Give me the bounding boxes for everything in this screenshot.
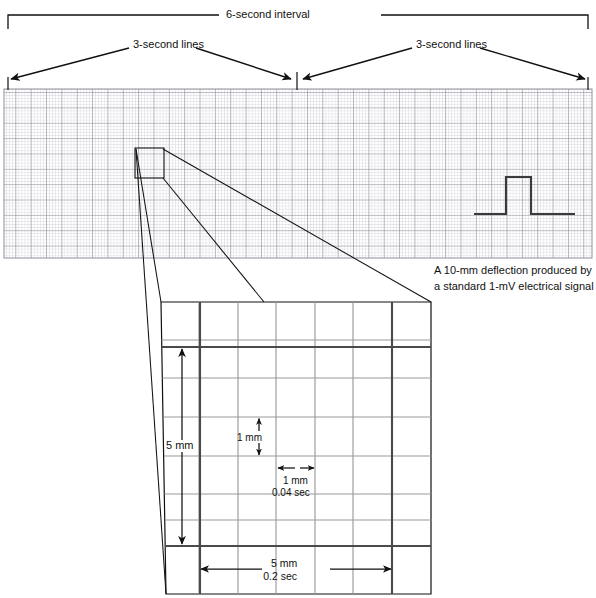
calibration-caption-line-1: A 10-mm deflection produced by bbox=[434, 263, 594, 279]
three-second-arrows-left bbox=[11, 48, 291, 79]
label-5mm-horizontal: 5 mm 0.2 sec bbox=[271, 557, 297, 583]
magnified-panel-frame bbox=[161, 302, 431, 594]
annotation-layer bbox=[0, 0, 596, 598]
three-second-lines-label-right: 3-second lines bbox=[416, 38, 487, 51]
label-1mm-vertical: 1 mm bbox=[237, 432, 262, 444]
three-second-arrows-right bbox=[303, 48, 585, 79]
three-second-tick-marks bbox=[8, 72, 588, 90]
label-1mm-horizontal-line-1: 1 mm bbox=[281, 475, 310, 487]
three-second-lines-label-left: 3-second lines bbox=[133, 38, 204, 51]
label-5mm-horizontal-line-2: 0.2 sec bbox=[263, 570, 297, 583]
magnified-panel-grid-bold bbox=[162, 302, 431, 594]
calibration-caption-line-2: a standard 1-mV electrical signal bbox=[434, 279, 594, 295]
ecg-paper-figure: 6-second interval 3-second lines 3-secon… bbox=[0, 0, 596, 598]
label-1mm-horizontal-line-2: 0.04 sec bbox=[272, 487, 310, 499]
six-second-interval-label: 6-second interval bbox=[226, 8, 310, 21]
magnification-projection-lines bbox=[136, 149, 431, 594]
calibration-caption: A 10-mm deflection produced by a standar… bbox=[434, 263, 594, 294]
magnified-panel-grid-fine bbox=[162, 302, 432, 594]
label-5mm-horizontal-line-1: 5 mm bbox=[271, 557, 297, 570]
label-1mm-horizontal: 1 mm 0.04 sec bbox=[281, 475, 310, 499]
label-5mm-vertical: 5 mm bbox=[166, 439, 194, 452]
